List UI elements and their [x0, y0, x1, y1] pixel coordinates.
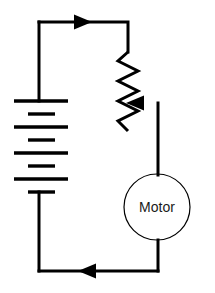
wire-top — [39, 22, 128, 52]
current-arrow-group — [74, 15, 144, 279]
potentiometer-symbol — [118, 52, 138, 131]
top-current-arrow-icon — [74, 15, 92, 30]
wire-group — [39, 22, 158, 271]
circuit-diagram: Motor — [0, 0, 215, 293]
circuit-canvas: Motor — [0, 0, 215, 293]
battery-symbol — [14, 101, 68, 192]
motor-label: Motor — [139, 199, 175, 215]
resistor-zigzag — [118, 52, 138, 131]
bottom-current-arrow-icon — [78, 264, 96, 279]
motor-symbol: Motor — [124, 174, 190, 240]
